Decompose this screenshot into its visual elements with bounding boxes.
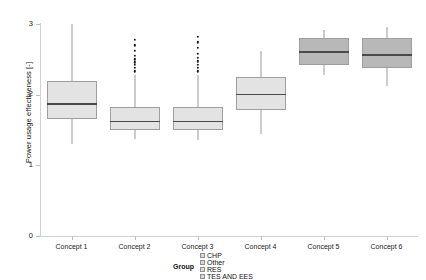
plot-area: 0123 Concept 1Concept 2Concept 3Concept … xyxy=(40,14,418,236)
legend-swatch xyxy=(200,253,205,258)
y-tick-label: 1 xyxy=(29,160,33,169)
y-tick: 2 xyxy=(36,95,40,96)
x-tick-label: Concept 6 xyxy=(371,243,403,250)
outlier-point xyxy=(133,44,135,46)
legend-item[interactable]: Other xyxy=(200,259,253,266)
legend-label: RES xyxy=(207,266,221,273)
box-plot-item[interactable] xyxy=(362,14,412,236)
outlier-point xyxy=(133,50,135,52)
outlier-point xyxy=(196,52,198,54)
legend-item[interactable]: TES AND EES xyxy=(200,273,253,280)
x-tick xyxy=(324,236,325,240)
whisker-lower xyxy=(71,119,72,144)
outlier-point xyxy=(196,47,198,49)
x-tick xyxy=(198,236,199,240)
y-tick-label: 2 xyxy=(29,89,33,98)
outlier-point xyxy=(133,38,135,40)
outlier-point xyxy=(133,70,135,72)
legend-swatch xyxy=(200,260,205,265)
outlier-point xyxy=(196,36,198,38)
x-tick-label: Concept 1 xyxy=(56,243,88,250)
outlier-point xyxy=(196,60,198,62)
legend: Group CHPOtherRESTES AND EES xyxy=(0,252,426,280)
box-plot-item[interactable] xyxy=(173,14,223,236)
outlier-point xyxy=(133,55,135,57)
whisker-lower xyxy=(386,68,387,86)
y-tick: 3 xyxy=(36,24,40,25)
box-iqr xyxy=(47,81,97,120)
box-plot-item[interactable] xyxy=(236,14,286,236)
outlier-point xyxy=(133,67,135,69)
box-plot-item[interactable] xyxy=(299,14,349,236)
x-tick xyxy=(387,236,388,240)
x-tick-label: Concept 4 xyxy=(245,243,277,250)
legend-label: Other xyxy=(207,259,225,266)
y-tick-label: 0 xyxy=(29,231,33,240)
whisker-upper xyxy=(71,24,72,81)
whisker-upper xyxy=(323,30,324,38)
box-iqr xyxy=(173,107,223,130)
median-line xyxy=(110,121,160,123)
legend-items: CHPOtherRESTES AND EES xyxy=(200,252,253,280)
box-iqr xyxy=(362,38,412,68)
whisker-lower xyxy=(134,130,135,139)
whisker-lower xyxy=(323,65,324,75)
median-line xyxy=(236,94,286,96)
legend-label: TES AND EES xyxy=(207,273,253,280)
legend-swatch xyxy=(200,267,205,272)
y-axis-line xyxy=(40,23,41,237)
outlier-point xyxy=(196,41,198,43)
x-axis-line xyxy=(40,236,418,237)
legend-label: CHP xyxy=(207,252,222,259)
x-tick-label: Concept 3 xyxy=(182,243,214,250)
whisker-lower xyxy=(197,130,198,140)
legend-item[interactable]: RES xyxy=(200,266,253,273)
box-iqr xyxy=(110,107,160,130)
y-tick: 1 xyxy=(36,165,40,166)
outlier-point xyxy=(196,57,198,59)
median-line xyxy=(362,54,412,56)
x-tick xyxy=(72,236,73,240)
legend-item[interactable]: CHP xyxy=(200,252,253,259)
box-plot-item[interactable] xyxy=(110,14,160,236)
x-tick-label: Concept 2 xyxy=(119,243,151,250)
median-line xyxy=(299,51,349,53)
legend-swatch xyxy=(200,274,205,279)
outlier-point xyxy=(196,67,198,69)
outlier-point xyxy=(196,70,198,72)
x-tick-label: Concept 5 xyxy=(308,243,340,250)
box-plot-item[interactable] xyxy=(47,14,97,236)
y-axis-title: Power usage effectiveness [-] xyxy=(24,23,33,203)
whisker-upper xyxy=(386,27,387,38)
median-line xyxy=(47,103,97,105)
median-line xyxy=(173,121,223,123)
y-tick-label: 3 xyxy=(29,19,33,28)
whisker-lower xyxy=(260,110,261,133)
legend-title: Group xyxy=(173,263,194,270)
x-tick xyxy=(261,236,262,240)
x-tick xyxy=(135,236,136,240)
whisker-upper xyxy=(260,51,261,77)
whisker-upper xyxy=(134,75,135,108)
whisker-upper xyxy=(197,75,198,108)
y-tick: 0 xyxy=(36,236,40,237)
